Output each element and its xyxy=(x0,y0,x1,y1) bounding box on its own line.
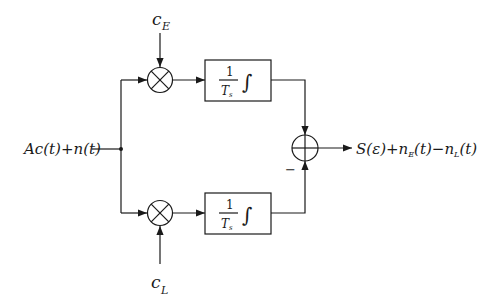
integrator-numerator: 1 xyxy=(226,65,234,79)
late-reference-label: c L xyxy=(151,272,168,297)
block-diagram: Ac(t)+n(t) c E 1 T s ∫ c L xyxy=(0,0,480,305)
svg-text:L: L xyxy=(160,284,168,297)
upper-integrator-output-wire xyxy=(271,80,305,135)
mixer-late xyxy=(148,201,173,226)
input-signal-label: Ac(t)+n(t) xyxy=(22,140,101,158)
svg-text:s: s xyxy=(229,91,233,99)
summing-junction xyxy=(292,135,318,161)
output-signal-label: S(ε)+nE(t)−nL(t) xyxy=(356,140,477,159)
integrator-late: 1 T s ∫ xyxy=(205,193,271,234)
minus-sign: − xyxy=(285,162,296,177)
svg-text:E: E xyxy=(161,20,170,33)
integrator-numerator: 1 xyxy=(226,198,234,212)
integral-icon: ∫ xyxy=(242,203,252,227)
svg-text:c: c xyxy=(151,272,161,292)
mixer-early xyxy=(148,68,173,93)
integrator-early: 1 T s ∫ xyxy=(205,60,271,101)
early-reference-label: c E xyxy=(152,9,170,33)
integral-icon: ∫ xyxy=(242,70,252,94)
svg-text:c: c xyxy=(152,9,162,29)
svg-text:s: s xyxy=(229,224,233,232)
